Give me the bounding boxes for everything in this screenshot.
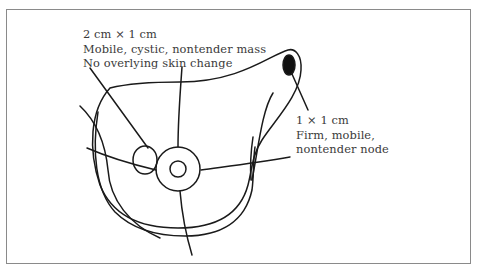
node-description-text: Firm, mobile, (296, 128, 389, 143)
quadrant-line-horizontal-right (201, 157, 290, 170)
mass-size-text: 2 cm × 1 cm (83, 27, 266, 42)
breast-outline-outer (95, 112, 255, 236)
quadrant-line-vertical-top (178, 67, 182, 147)
areola (156, 147, 200, 191)
mass-skin-text: No overlying skin change (83, 56, 266, 71)
node-annotation: 1 × 1 cm Firm, mobile, nontender node (296, 113, 389, 157)
quadrant-line-horizontal-left (87, 148, 156, 170)
mass-annotation: 2 cm × 1 cm Mobile, cystic, nontender ma… (83, 27, 266, 71)
mass-description-text: Mobile, cystic, nontender mass (83, 42, 266, 57)
chest-wall-curve-right (252, 93, 273, 180)
chest-wall-curve-left (80, 106, 160, 238)
node-tenderness-text: nontender node (296, 142, 389, 157)
cystic-mass (133, 146, 157, 174)
node-size-text: 1 × 1 cm (296, 113, 389, 128)
lymph-node (283, 55, 295, 75)
nipple (170, 161, 186, 177)
breast-outline-inner (93, 50, 302, 228)
quadrant-line-vertical-bottom (180, 191, 192, 255)
